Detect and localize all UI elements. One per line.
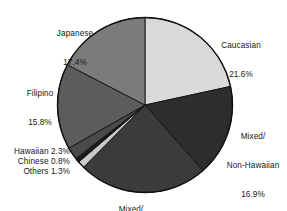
slice-label-japanese-line1: Japanese (44, 29, 106, 39)
slice-label-others: Others 1.3% (2, 148, 70, 196)
slice-label-filipino-line2: 15.8% (12, 118, 68, 128)
slice-label-mixed-part-hawaiian: Mixed/ Part Hawaiian 23.9% (76, 186, 186, 211)
slice-label-caucasian: Caucasian 21.6% (208, 22, 274, 99)
slice-label-others-line1: Others 1.3% (2, 167, 70, 177)
slice-label-mixed-non-hawaiian-line3: 16.9% (222, 190, 284, 200)
pie-chart-figure: Japanese 17.4% Caucasian 21.6% Filipino … (0, 0, 287, 211)
slice-label-japanese-line2: 17.4% (44, 58, 106, 68)
slice-label-caucasian-line1: Caucasian (208, 41, 274, 51)
slice-label-caucasian-line2: 21.6% (208, 70, 274, 80)
slice-label-mixed-non-hawaiian-line1: Mixed/ (222, 132, 284, 142)
slice-label-mixed-part-hawaiian-line1: Mixed/ (76, 205, 186, 211)
slice-label-filipino-line1: Filipino (12, 89, 68, 99)
slice-label-mixed-non-hawaiian-line2: Non-Hawaiian (222, 161, 284, 171)
slice-label-mixed-non-hawaiian: Mixed/ Non-Hawaiian 16.9% (222, 113, 284, 211)
